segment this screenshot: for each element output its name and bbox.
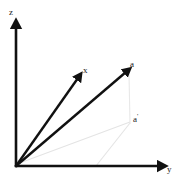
guide-aprime-vertical-drop <box>129 74 130 124</box>
guide-aprime-to-y-axis <box>96 123 130 166</box>
vector-x-label: x <box>83 66 88 75</box>
origin-point <box>14 164 17 167</box>
vector-projection-figure: z y x a a' <box>0 0 179 188</box>
projection-a-prime-label: a' <box>133 113 138 124</box>
figure-canvas <box>0 0 179 188</box>
guide-origin-to-aprime <box>17 122 130 164</box>
vectors-group <box>16 72 126 166</box>
a-prime-mark: ' <box>137 112 138 120</box>
vector-a-label: a <box>130 60 134 69</box>
z-axis-label: z <box>9 8 13 17</box>
axes-group <box>16 26 160 166</box>
y-axis-label: y <box>167 165 172 174</box>
